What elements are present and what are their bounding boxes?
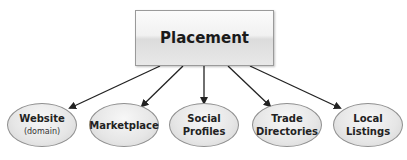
- node-trade-directories: Trade Directories: [252, 103, 322, 147]
- node-sublabel: (domain): [24, 125, 60, 138]
- root-label: Placement: [160, 29, 249, 47]
- node-label: Social: [187, 112, 221, 125]
- root-node-placement: Placement: [135, 10, 274, 66]
- node-label: Local: [353, 112, 382, 125]
- node-marketplace: Marketplace: [89, 103, 159, 147]
- node-local-listings: Local Listings: [333, 103, 403, 147]
- node-label: Marketplace: [89, 119, 159, 132]
- node-label-line2: Profiles: [183, 125, 226, 138]
- node-label: Trade: [271, 112, 302, 125]
- node-social-profiles: Social Profiles: [169, 103, 239, 147]
- node-label-line2: Listings: [346, 125, 390, 138]
- node-website: Website (domain): [7, 103, 77, 147]
- node-label-line2: Directories: [256, 125, 318, 138]
- node-label: Website: [19, 112, 65, 125]
- arrow-to-local-listings: [250, 66, 340, 108]
